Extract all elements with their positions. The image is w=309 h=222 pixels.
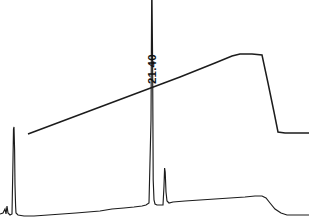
chromatogram-figure: 21.40	[0, 0, 309, 222]
retention-time-label: 21.40	[147, 54, 159, 84]
chromatogram-plot-area	[0, 0, 309, 222]
plot-background	[0, 0, 309, 222]
